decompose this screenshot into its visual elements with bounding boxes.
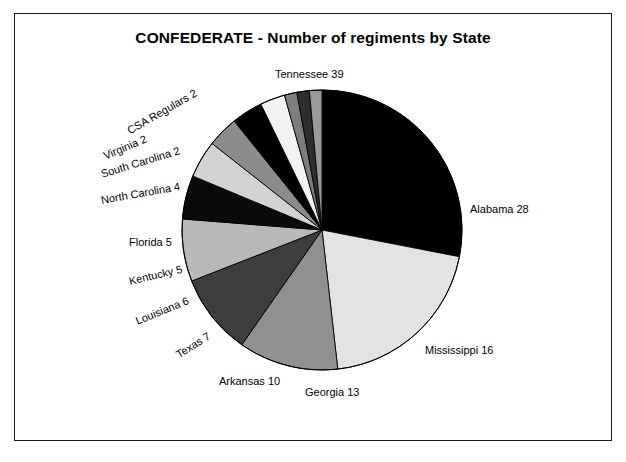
pie-label-arkansas: Arkansas 10 <box>219 375 280 387</box>
pie-label-mississippi: Mississippi 16 <box>425 344 493 356</box>
pie-slice-tennessee <box>322 90 462 257</box>
pie-label-tennessee: Tennessee 39 <box>275 68 344 80</box>
pie-label-georgia: Georgia 13 <box>305 386 359 398</box>
pie-label-florida: Florida 5 <box>129 236 172 248</box>
pie-chart: Tennessee 39Alabama 28Mississippi 16Geor… <box>0 0 626 462</box>
screenshot-canvas: CONFEDERATE - Number of regiments by Sta… <box>0 0 626 462</box>
pie-label-alabama: Alabama 28 <box>470 203 529 215</box>
